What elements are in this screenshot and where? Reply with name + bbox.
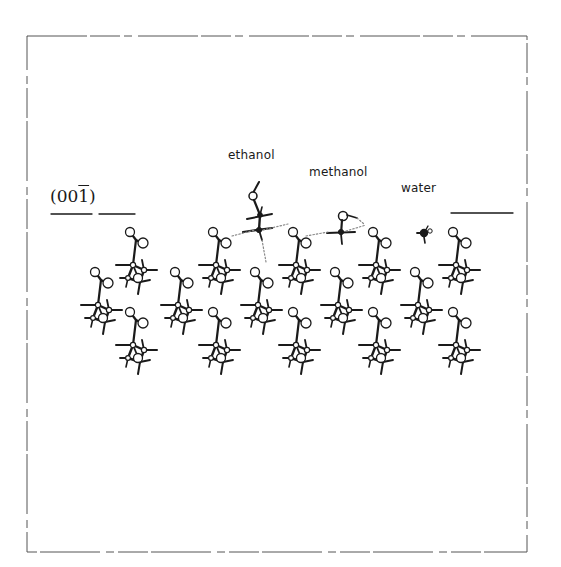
- host-molecule: [439, 228, 480, 295]
- host-molecule: [116, 228, 157, 295]
- host-molecule: [241, 268, 282, 335]
- host-molecule: [439, 308, 480, 375]
- host-molecule: [116, 308, 157, 375]
- label-ethanol: ethanol: [228, 148, 275, 162]
- host-molecule: [359, 308, 400, 375]
- label-methanol: methanol: [309, 165, 368, 179]
- structure-drawing: [0, 0, 561, 567]
- figure-frame: [27, 36, 527, 552]
- host-molecule: [359, 228, 400, 295]
- host-molecule: [321, 268, 362, 335]
- host-molecule: [279, 228, 320, 295]
- host-molecule: [199, 228, 240, 295]
- host-molecule: [401, 268, 442, 335]
- host-molecule: [199, 308, 240, 375]
- label-water: water: [401, 181, 436, 195]
- host-molecule: [279, 308, 320, 375]
- host-molecules: [81, 228, 480, 375]
- host-molecule: [161, 268, 202, 335]
- plane-label-001bar: (001): [50, 186, 96, 206]
- ethanol-molecule: [232, 182, 288, 262]
- methanol-molecule: [306, 212, 366, 245]
- water-molecule: [417, 226, 432, 243]
- surface-plane-lines: [51, 213, 513, 214]
- host-molecule: [81, 268, 122, 335]
- crystal-packing-figure: (001) ethanol methanol water: [0, 0, 561, 567]
